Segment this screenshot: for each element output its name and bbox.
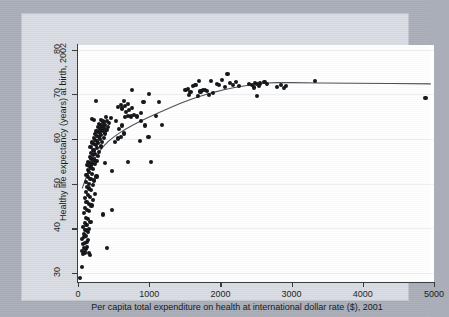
scatter-point	[83, 206, 87, 210]
x-tick-label-3000: 3000	[272, 289, 312, 299]
scatter-point	[225, 72, 229, 76]
y-tick-60	[72, 139, 78, 140]
scatter-point	[105, 119, 109, 123]
y-tick-50	[72, 184, 78, 185]
x-tick-label-4000: 4000	[343, 289, 383, 299]
scatter-point	[110, 208, 114, 212]
y-axis-title: Healthy life expectancy (years) at birth…	[58, 17, 68, 247]
plot-area	[78, 45, 434, 282]
scatter-point	[103, 161, 107, 165]
x-tick-label-0: 0	[58, 289, 98, 299]
lowess-fit-line	[82, 83, 430, 189]
scatter-point	[160, 123, 164, 127]
scatter-point	[147, 92, 151, 96]
scatter-point	[143, 123, 147, 127]
scatter-point	[138, 139, 142, 143]
scatter-point	[99, 144, 103, 148]
scatter-point	[94, 174, 98, 178]
scatter-point	[93, 192, 97, 196]
scatter-point	[423, 96, 427, 100]
plot-inner	[78, 45, 434, 282]
y-tick-30	[72, 273, 78, 274]
scatter-point	[141, 100, 145, 104]
scatter-point	[146, 135, 150, 139]
y-tick-80	[72, 50, 78, 51]
scatter-point	[154, 114, 158, 118]
scatter-point	[196, 94, 200, 98]
x-tick-4000	[363, 282, 364, 287]
x-tick-label-1000: 1000	[129, 289, 169, 299]
scatter-point	[149, 160, 153, 164]
x-tick-label-5000: 5000	[414, 289, 449, 299]
graph-region: 304050607080 010002000300040005000 Healt…	[22, 14, 408, 300]
scatter-point	[84, 180, 88, 184]
scatter-point	[130, 106, 134, 110]
y-tick-label-30: 30	[52, 261, 62, 283]
scatter-point	[126, 102, 130, 106]
x-axis-line	[77, 282, 434, 283]
scatter-point	[105, 246, 109, 250]
y-tick-40	[72, 228, 78, 229]
y-axis-line	[77, 44, 78, 283]
x-tick-3000	[292, 282, 293, 287]
x-tick-2000	[220, 282, 221, 287]
scatter-point	[120, 123, 124, 127]
scatter-point	[84, 200, 88, 204]
scatter-point	[220, 78, 224, 82]
scatter-point	[88, 253, 92, 257]
scatter-point	[223, 85, 227, 89]
scatter-point	[119, 103, 123, 107]
scatter-point	[122, 131, 126, 135]
scatter-point	[252, 85, 256, 89]
scatter-point	[101, 212, 105, 216]
x-tick-1000	[149, 282, 150, 287]
x-axis-title: Per capita total expenditure on health a…	[44, 302, 430, 312]
scatter-point	[99, 118, 103, 122]
scatter-point	[197, 79, 201, 83]
x-tick-0	[78, 282, 79, 287]
scatter-point	[135, 114, 139, 118]
y-tick-70	[72, 94, 78, 95]
x-tick-label-2000: 2000	[200, 289, 240, 299]
scatter-point	[84, 216, 88, 220]
scatter-point	[193, 83, 197, 87]
scatter-point	[87, 227, 91, 231]
x-tick-5000	[434, 282, 435, 287]
scatter-point	[139, 119, 143, 123]
scatter-point	[122, 99, 126, 103]
